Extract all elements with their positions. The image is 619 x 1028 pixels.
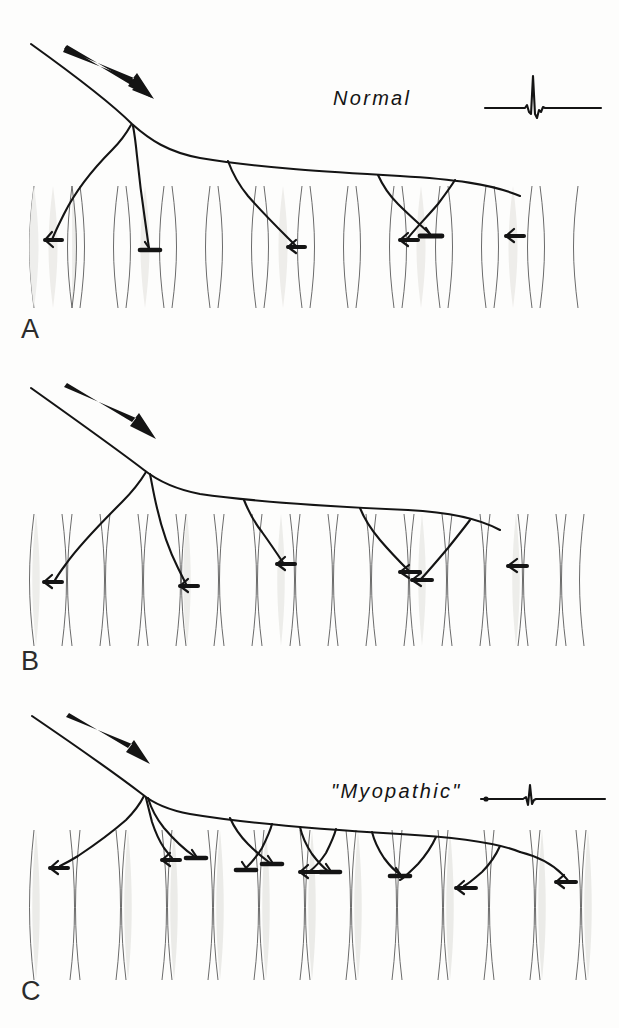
normal-motor-unit-potential-waveform bbox=[483, 68, 603, 130]
terminal-nerve-branches bbox=[52, 125, 455, 248]
panel-normal: Normal bbox=[0, 0, 619, 350]
motor-axon bbox=[31, 388, 500, 530]
panel-reinnervated: Reinnervated bbox=[0, 680, 619, 1028]
panel-letter-c: C bbox=[21, 978, 41, 1005]
panel-b-drawing bbox=[0, 350, 619, 690]
muscle-fiber-group bbox=[30, 830, 587, 980]
innervated-fiber-shading bbox=[49, 186, 518, 308]
panel-a-title: Normal bbox=[333, 88, 411, 108]
terminal-nerve-branches bbox=[54, 472, 470, 586]
motor-axon bbox=[32, 716, 520, 852]
motor-endplate-group bbox=[44, 557, 527, 592]
panel-a-drawing bbox=[0, 0, 619, 350]
down-right-arrow-icon bbox=[63, 45, 154, 99]
panel-c-drawing bbox=[0, 680, 619, 1028]
innervation-figure: Normal bbox=[0, 0, 619, 1028]
down-right-arrow-icon bbox=[66, 713, 150, 764]
panel-letter-b: B bbox=[21, 648, 39, 675]
panel-myopathic: "Myopathic" bbox=[0, 350, 619, 690]
down-right-arrow-icon bbox=[64, 383, 156, 439]
panel-letter-a: A bbox=[21, 316, 39, 343]
muscle-fiber-group bbox=[30, 514, 585, 646]
